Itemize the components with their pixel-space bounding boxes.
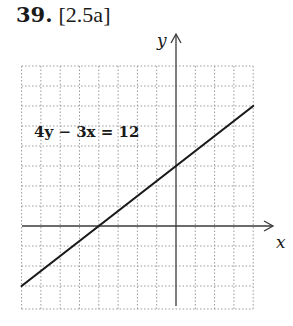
graph: 4y − 3x = 12 x y: [0, 0, 293, 326]
grid: [22, 66, 254, 309]
equation-label: 4y − 3x = 12: [34, 123, 139, 141]
x-axis: [22, 221, 273, 231]
x-axis-label: x: [276, 232, 286, 252]
y-axis-label: y: [156, 30, 167, 50]
